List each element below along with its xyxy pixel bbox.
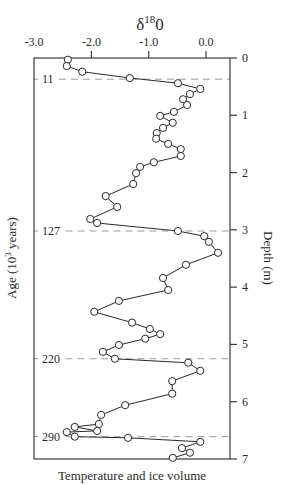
data-point-marker bbox=[157, 331, 164, 338]
x-tick-label: -2.0 bbox=[82, 35, 101, 49]
data-point-marker bbox=[165, 286, 172, 293]
x-axis-label: Temperature and ice volume bbox=[58, 468, 206, 483]
data-point-marker bbox=[169, 454, 176, 461]
data-point-marker bbox=[71, 433, 78, 440]
data-point-marker bbox=[94, 427, 101, 434]
depth-tick-label: 5 bbox=[242, 337, 248, 351]
age-marker-label: 220 bbox=[42, 352, 60, 366]
data-point-marker bbox=[111, 355, 118, 362]
data-point-marker bbox=[99, 348, 106, 355]
data-point-marker bbox=[185, 359, 192, 366]
data-point-marker bbox=[115, 297, 122, 304]
data-point-marker bbox=[142, 335, 149, 342]
data-point-marker bbox=[126, 74, 133, 81]
data-point-marker bbox=[94, 219, 101, 226]
data-point-marker bbox=[177, 152, 184, 159]
svg-text:Depth (m): Depth (m) bbox=[261, 231, 276, 285]
data-point-marker bbox=[115, 341, 122, 348]
data-point-marker bbox=[157, 112, 164, 119]
data-point-marker bbox=[197, 85, 204, 92]
data-point-marker bbox=[122, 402, 129, 409]
data-point-marker bbox=[63, 62, 70, 69]
data-series bbox=[63, 56, 221, 461]
series-line bbox=[67, 60, 218, 458]
right-axis-label: Depth (m) bbox=[261, 231, 276, 285]
data-point-marker bbox=[124, 434, 131, 441]
depth-tick-label: 4 bbox=[242, 280, 248, 294]
data-point-marker bbox=[159, 124, 166, 131]
x-tick-label: -1.0 bbox=[139, 35, 158, 49]
data-point-marker bbox=[63, 428, 70, 435]
data-point-marker bbox=[186, 449, 193, 456]
data-point-marker bbox=[186, 90, 193, 97]
age-marker-label: 11 bbox=[42, 72, 54, 86]
data-point-marker bbox=[87, 215, 94, 222]
data-point-marker bbox=[183, 101, 190, 108]
data-point-marker bbox=[114, 203, 121, 210]
data-point-marker bbox=[178, 445, 185, 452]
svg-text:Age (103 years): Age (103 years) bbox=[3, 217, 19, 299]
data-point-marker bbox=[130, 180, 137, 187]
data-point-marker bbox=[170, 108, 177, 115]
data-point-marker bbox=[197, 367, 204, 374]
data-point-marker bbox=[174, 227, 181, 234]
data-point-marker bbox=[102, 192, 109, 199]
data-point-marker bbox=[159, 274, 166, 281]
delta-o18-depth-chart: δ180 -3.0-2.0-1.00.0 01234567 1112722029… bbox=[0, 0, 282, 485]
data-point-marker bbox=[174, 80, 181, 87]
data-point-marker bbox=[169, 377, 176, 384]
depth-tick-label: 3 bbox=[242, 223, 248, 237]
data-point-marker bbox=[79, 68, 86, 75]
data-point-marker bbox=[214, 249, 221, 256]
data-point-marker bbox=[169, 119, 176, 126]
data-point-marker bbox=[182, 261, 189, 268]
svg-text:δ180: δ180 bbox=[136, 13, 164, 34]
age-marker-lines: 11127220290 bbox=[34, 72, 230, 443]
plot-frame bbox=[34, 58, 230, 459]
depth-tick-label: 0 bbox=[242, 51, 248, 65]
data-point-marker bbox=[150, 159, 157, 166]
depth-tick-label: 1 bbox=[242, 108, 248, 122]
depth-axis-ticks: 01234567 bbox=[230, 51, 248, 466]
data-point-marker bbox=[98, 411, 105, 418]
x-tick-label: -3.0 bbox=[25, 35, 44, 49]
data-point-marker bbox=[95, 420, 102, 427]
data-point-marker bbox=[128, 319, 135, 326]
chart-title: δ180 bbox=[136, 13, 164, 34]
age-marker-label: 127 bbox=[42, 224, 60, 238]
data-point-marker bbox=[205, 238, 212, 245]
x-axis-ticks: -3.0-2.0-1.00.0 bbox=[25, 35, 214, 58]
x-tick-label: 0.0 bbox=[199, 35, 214, 49]
depth-tick-label: 7 bbox=[242, 452, 248, 466]
depth-tick-label: 6 bbox=[242, 395, 248, 409]
data-point-marker bbox=[177, 145, 184, 152]
data-point-marker bbox=[71, 423, 78, 430]
data-point-marker bbox=[146, 325, 153, 332]
left-axis-label: Age (103 years) bbox=[3, 217, 19, 299]
age-marker-label: 290 bbox=[42, 430, 60, 444]
data-point-marker bbox=[153, 135, 160, 142]
data-point-marker bbox=[132, 170, 139, 177]
data-point-marker bbox=[91, 308, 98, 315]
data-point-marker bbox=[169, 390, 176, 397]
data-point-marker bbox=[197, 438, 204, 445]
depth-tick-label: 2 bbox=[242, 166, 248, 180]
data-point-marker bbox=[165, 140, 172, 147]
